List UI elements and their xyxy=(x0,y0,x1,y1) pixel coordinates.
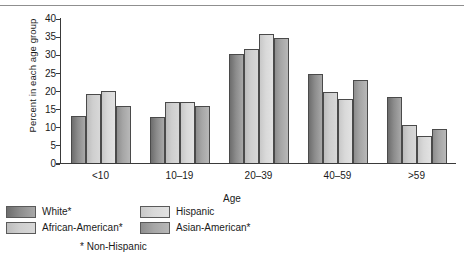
y-tick-mark-2 xyxy=(56,127,60,128)
y-tick-label-5: 25 xyxy=(26,69,56,79)
y-tick-mark-4 xyxy=(56,91,60,92)
legend-item-label: White* xyxy=(42,206,71,217)
x-axis-line xyxy=(60,163,456,164)
x-tick-label-0: <10 xyxy=(61,170,140,181)
y-tick-label-7: 35 xyxy=(26,32,56,42)
bar xyxy=(417,136,432,162)
legend-item: African-American* xyxy=(6,221,123,234)
legend-swatch-icon xyxy=(140,222,170,234)
legend: White*African-American* HispanicAsian-Am… xyxy=(0,205,464,256)
legend-item: White* xyxy=(6,205,123,218)
y-tick-label-2: 10 xyxy=(26,123,56,133)
x-tick-label-2: 20–39 xyxy=(219,170,298,181)
bar xyxy=(259,34,274,163)
bar xyxy=(308,74,323,163)
y-tick-mark-0 xyxy=(56,163,60,164)
bar-group xyxy=(377,18,456,163)
top-divider xyxy=(0,5,464,6)
y-tick-label-8: 40 xyxy=(26,14,56,24)
bar xyxy=(353,80,368,163)
bar xyxy=(116,106,131,163)
legend-item-label: Hispanic xyxy=(176,206,214,217)
legend-swatch-icon xyxy=(6,222,36,234)
y-tick-mark-7 xyxy=(56,37,60,38)
bar-group xyxy=(298,18,377,163)
figure: Percent in each age group 05101520253035… xyxy=(0,0,464,256)
y-tick-label-6: 30 xyxy=(26,50,56,60)
bar xyxy=(180,102,195,163)
bar xyxy=(323,92,338,163)
y-tick-label-0: 0 xyxy=(26,159,56,169)
x-tick-label-4: >59 xyxy=(377,170,456,181)
y-tick-mark-3 xyxy=(56,109,60,110)
bar xyxy=(150,117,165,163)
x-tick-label-1: 10–19 xyxy=(140,170,219,181)
y-tick-mark-5 xyxy=(56,73,60,74)
bar xyxy=(71,116,86,163)
bar xyxy=(165,102,180,163)
x-axis-label: Age xyxy=(0,193,464,204)
bar-group xyxy=(219,18,298,163)
y-tick-label-4: 20 xyxy=(26,87,56,97)
legend-footnote: * Non-Hispanic xyxy=(80,241,147,252)
y-tick-label-1: 5 xyxy=(26,141,56,151)
y-tick-mark-6 xyxy=(56,55,60,56)
bar-group xyxy=(140,18,219,163)
legend-item: Hispanic xyxy=(140,205,250,218)
y-tick-mark-1 xyxy=(56,145,60,146)
y-tick-mark-8 xyxy=(56,19,60,20)
legend-column-left: White*African-American* xyxy=(6,205,123,234)
axes: 0510152025303540 xyxy=(60,18,456,164)
y-tick-label-3: 15 xyxy=(26,105,56,115)
bar xyxy=(402,125,417,163)
legend-swatch-icon xyxy=(6,206,36,218)
plot-area: Percent in each age group 05101520253035… xyxy=(0,12,464,174)
bar xyxy=(86,94,101,163)
bar xyxy=(244,49,259,163)
bar xyxy=(387,97,402,163)
x-tick-label-3: 40–59 xyxy=(298,170,377,181)
bar xyxy=(101,91,116,163)
bar xyxy=(274,38,289,163)
bar xyxy=(432,129,447,163)
bar-group xyxy=(61,18,140,163)
legend-item-label: African-American* xyxy=(42,222,123,233)
bar xyxy=(195,106,210,163)
bar xyxy=(338,99,353,162)
bar xyxy=(229,54,244,163)
legend-swatch-icon xyxy=(140,206,170,218)
legend-column-right: HispanicAsian-American* xyxy=(140,205,250,234)
bar-groups xyxy=(61,18,456,163)
legend-item-label: Asian-American* xyxy=(176,222,250,233)
legend-item: Asian-American* xyxy=(140,221,250,234)
x-tick-labels: <1010–1920–3940–59>59 xyxy=(61,170,456,181)
